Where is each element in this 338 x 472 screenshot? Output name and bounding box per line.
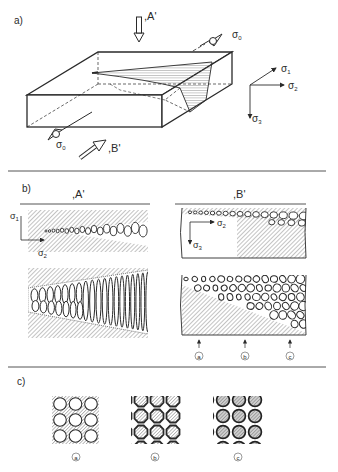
grain-shading bbox=[266, 427, 277, 438]
pore-circle bbox=[54, 398, 67, 411]
panel-a-label: a) bbox=[14, 15, 23, 26]
grain bbox=[96, 279, 101, 323]
grain bbox=[273, 302, 280, 310]
grain-round bbox=[233, 378, 246, 391]
grain bbox=[47, 287, 53, 303]
grain-round bbox=[265, 394, 278, 407]
pore bbox=[91, 225, 97, 232]
grain bbox=[131, 274, 135, 329]
grain-shading bbox=[234, 427, 245, 438]
pore bbox=[56, 229, 59, 233]
grain-round bbox=[265, 426, 278, 439]
grain-octagon bbox=[183, 442, 196, 455]
grain-octagon bbox=[135, 426, 148, 439]
principal-axes bbox=[250, 68, 284, 118]
grain bbox=[213, 285, 218, 291]
pore-circle bbox=[69, 414, 82, 427]
pore bbox=[288, 220, 295, 226]
view-b-title: ,B' bbox=[233, 188, 246, 200]
pore bbox=[270, 212, 278, 218]
pore bbox=[298, 220, 305, 226]
grain-round bbox=[201, 442, 214, 455]
figure-canvas: a) ,A' σ0 bbox=[0, 0, 338, 472]
grain-round bbox=[201, 378, 214, 391]
view-a-label: ,A' bbox=[144, 10, 157, 22]
pore bbox=[124, 226, 131, 237]
grain-shading bbox=[218, 443, 229, 454]
grain bbox=[83, 281, 88, 321]
pore bbox=[48, 230, 50, 233]
pore-circle bbox=[85, 398, 98, 411]
grain-shading bbox=[234, 443, 245, 454]
specimen-block bbox=[27, 52, 232, 127]
grain bbox=[288, 293, 296, 301]
panel-b: b) ,A' ,B' σ1 σ2 bbox=[10, 183, 309, 360]
grain-octagon bbox=[151, 410, 164, 423]
pore bbox=[210, 211, 214, 215]
grain bbox=[102, 278, 107, 324]
grain-octagon bbox=[135, 378, 148, 391]
grain-shading bbox=[266, 379, 277, 390]
pore-circle bbox=[54, 414, 67, 427]
pattern-a bbox=[52, 396, 99, 444]
sigma0-bottom-label: σ0 bbox=[56, 139, 66, 151]
sigma0-top-label: σ0 bbox=[232, 29, 242, 41]
pore-circle bbox=[69, 430, 82, 443]
pore bbox=[85, 228, 90, 235]
grain-octagon bbox=[119, 394, 132, 407]
grain-octagon bbox=[151, 442, 164, 455]
grain bbox=[32, 301, 39, 312]
marker-c-label: c bbox=[289, 354, 292, 360]
pore bbox=[204, 211, 208, 214]
grain-shading bbox=[218, 427, 229, 438]
grain bbox=[184, 277, 188, 281]
pore bbox=[223, 211, 228, 215]
grain bbox=[252, 293, 261, 301]
pore bbox=[245, 211, 251, 216]
grain bbox=[77, 302, 83, 320]
grain bbox=[40, 301, 47, 313]
view-b-bottom-section bbox=[182, 274, 309, 335]
grain-shading bbox=[234, 395, 245, 406]
pore bbox=[75, 228, 80, 234]
grain-octagon bbox=[167, 426, 180, 439]
grain bbox=[39, 288, 46, 303]
pore bbox=[70, 227, 74, 232]
grain-octagon bbox=[119, 442, 132, 455]
pattern-b-caption: b bbox=[153, 455, 157, 461]
view-a-bottom-section bbox=[28, 268, 149, 338]
pattern-c bbox=[201, 378, 278, 455]
grain-octagon bbox=[167, 410, 180, 423]
pore bbox=[104, 224, 110, 233]
grain bbox=[108, 277, 113, 325]
pore bbox=[299, 212, 308, 220]
grain-shading bbox=[218, 395, 229, 406]
pore bbox=[237, 211, 243, 216]
pore bbox=[289, 212, 298, 219]
grain-shading bbox=[218, 411, 229, 422]
pore bbox=[45, 230, 47, 232]
grain bbox=[125, 275, 129, 328]
grain bbox=[141, 273, 145, 331]
pore-circle bbox=[54, 430, 67, 443]
pore bbox=[230, 211, 235, 216]
grain bbox=[218, 293, 224, 300]
grain-octagon bbox=[151, 378, 164, 391]
grain-octagon bbox=[135, 442, 148, 455]
pore-circle bbox=[85, 430, 98, 443]
pore bbox=[97, 227, 103, 235]
pore bbox=[217, 211, 222, 215]
pore bbox=[117, 223, 124, 233]
view-a-sigma1-label: σ1 bbox=[10, 211, 20, 222]
grain bbox=[278, 310, 287, 319]
grain-shading bbox=[202, 379, 213, 390]
grain-octagon bbox=[151, 394, 164, 407]
grain bbox=[63, 301, 69, 317]
grain-round bbox=[265, 442, 278, 455]
pore bbox=[261, 212, 268, 218]
grain-shading bbox=[234, 379, 245, 390]
panel-c-label: c) bbox=[17, 376, 25, 387]
grain-shading bbox=[250, 443, 261, 454]
grain-octagon bbox=[183, 410, 196, 423]
pore bbox=[65, 229, 69, 234]
